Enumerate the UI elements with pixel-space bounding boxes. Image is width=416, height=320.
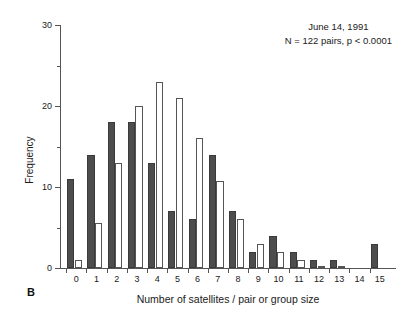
bar-observed-10 [269, 236, 276, 268]
x-tick-14 [349, 268, 350, 273]
y-tick-label-30: 30 [42, 21, 52, 30]
bar-expected-2 [115, 163, 122, 268]
x-tick-12 [309, 268, 310, 273]
y-tick-label-20: 20 [42, 102, 52, 111]
bar-observed-8 [229, 211, 236, 268]
x-tick-label-15: 15 [368, 275, 392, 284]
bar-expected-0 [75, 260, 82, 268]
bar-expected-1 [95, 223, 102, 268]
bar-observed-0 [67, 179, 74, 268]
x-tick-5 [167, 268, 168, 273]
x-tick-15 [370, 268, 371, 273]
bar-expected-12 [318, 266, 325, 268]
y-tick-label-0: 0 [47, 264, 52, 273]
x-tick-10 [268, 268, 269, 273]
bar-observed-15 [371, 244, 378, 268]
bar-observed-2 [108, 122, 115, 268]
bar-observed-9 [249, 252, 256, 268]
x-tick-6 [188, 268, 189, 273]
x-tick-1 [86, 268, 87, 273]
figure-panel-b: June 14, 1991 N = 122 pairs, p < 0.0001 … [0, 0, 416, 320]
x-tick-7 [208, 268, 209, 273]
panel-label: B [27, 286, 35, 298]
bar-observed-12 [310, 260, 317, 268]
y-tick-0 [55, 268, 61, 269]
bar-observed-11 [290, 252, 297, 268]
x-tick-3 [127, 268, 128, 273]
bar-expected-3 [135, 106, 142, 268]
x-tick-11 [289, 268, 290, 273]
bar-expected-11 [297, 260, 304, 268]
bar-expected-9 [257, 244, 264, 268]
bar-expected-8 [237, 219, 244, 268]
x-tick-2 [107, 268, 108, 273]
x-tick-9 [248, 268, 249, 273]
bar-expected-7 [216, 181, 223, 268]
bar-observed-4 [148, 163, 155, 268]
y-axis-title: Frequency [24, 136, 35, 183]
bars-plot-area [60, 25, 396, 268]
x-tick-13 [329, 268, 330, 273]
bar-observed-1 [87, 155, 94, 268]
bar-observed-3 [128, 122, 135, 268]
bar-expected-10 [277, 252, 284, 268]
bar-expected-6 [196, 138, 203, 268]
bar-observed-7 [209, 155, 216, 268]
bar-expected-5 [176, 98, 183, 268]
bar-expected-4 [156, 82, 163, 268]
x-tick-8 [228, 268, 229, 273]
x-axis-title: Number of satellites / pair or group siz… [60, 293, 396, 305]
bar-observed-13 [330, 260, 337, 268]
bar-expected-13 [338, 266, 345, 268]
x-tick-4 [147, 268, 148, 273]
x-tick-0 [66, 268, 67, 273]
y-tick-label-10: 10 [42, 183, 52, 192]
bar-observed-6 [189, 219, 196, 268]
bar-observed-5 [168, 211, 175, 268]
